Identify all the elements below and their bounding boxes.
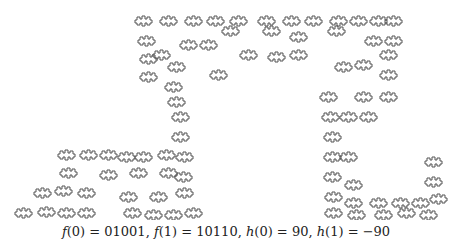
fractal-segment bbox=[58, 208, 75, 218]
fractal-segment bbox=[210, 70, 227, 80]
fractal-segment bbox=[305, 16, 322, 26]
fractal-segment bbox=[185, 16, 202, 26]
fractal-segment bbox=[430, 194, 447, 204]
fractal-segment bbox=[168, 62, 185, 72]
fractal-segment bbox=[355, 92, 372, 102]
fractal-segment bbox=[370, 16, 387, 26]
fractal-segment bbox=[100, 170, 117, 180]
fractal-segment bbox=[180, 40, 197, 50]
fractal-segment bbox=[165, 210, 182, 220]
fractal-segment bbox=[392, 198, 409, 208]
fractal-segment bbox=[172, 132, 189, 142]
fractal-segment bbox=[150, 192, 167, 202]
fractal-segment bbox=[290, 50, 307, 60]
fractal-segment bbox=[385, 36, 402, 46]
fractal-segment bbox=[100, 150, 117, 160]
fractal-segment bbox=[60, 168, 77, 178]
fractal-segment bbox=[160, 16, 177, 26]
fractal-segment bbox=[360, 112, 377, 122]
fractal-segment bbox=[124, 208, 141, 218]
fractal-segment bbox=[200, 40, 217, 50]
fractal-segment bbox=[325, 208, 342, 218]
fractal-segment bbox=[380, 70, 397, 80]
fractal-segment bbox=[230, 16, 247, 26]
fractal-segment bbox=[328, 26, 345, 36]
fractal-segment bbox=[140, 72, 157, 82]
fractal-segment bbox=[355, 60, 372, 70]
fractal-segment bbox=[380, 50, 397, 60]
fractal-segment bbox=[135, 16, 152, 26]
fractal-segment bbox=[350, 16, 367, 26]
fractal-segment bbox=[375, 210, 392, 220]
figure-caption: f(0) = 01001, f(1) = 10110, h(0) = 90, h… bbox=[0, 224, 452, 239]
fractal-segment bbox=[120, 192, 137, 202]
fractal-segment bbox=[80, 150, 97, 160]
fractal-segment bbox=[324, 132, 341, 142]
caption-h0-value: (0) = 90, bbox=[254, 224, 316, 239]
fractal-segment bbox=[412, 198, 429, 208]
fractal-segment bbox=[425, 177, 442, 187]
caption-f0-value: (0) = 01001, bbox=[67, 224, 154, 239]
fractal-segment bbox=[172, 112, 189, 122]
fractal-segment bbox=[325, 192, 342, 202]
fractal-segment bbox=[380, 92, 397, 102]
fractal-segment bbox=[55, 186, 72, 196]
fractal-segment bbox=[176, 152, 193, 162]
fractal-segment bbox=[165, 82, 182, 92]
fractal-segment bbox=[168, 97, 185, 107]
fractal-segment bbox=[176, 188, 193, 198]
fractal-segment bbox=[160, 168, 177, 178]
fractal-segment bbox=[158, 150, 175, 160]
fractal-segment bbox=[140, 54, 157, 64]
fractal-segment bbox=[420, 210, 437, 220]
fractal-segment bbox=[268, 52, 285, 62]
fractal-segment bbox=[340, 112, 357, 122]
fractal-segment bbox=[207, 16, 224, 26]
fractal-segment bbox=[320, 92, 337, 102]
fractal-tiles bbox=[15, 16, 447, 220]
fractal-segment bbox=[153, 50, 170, 60]
fractal-segment bbox=[222, 26, 239, 36]
fractal-segment bbox=[240, 50, 257, 60]
fractal-segment bbox=[258, 16, 275, 26]
fractal-segment bbox=[335, 62, 352, 72]
caption-h-symbol: h bbox=[317, 224, 325, 239]
fractal-segment bbox=[322, 112, 339, 122]
fractal-segment bbox=[78, 208, 95, 218]
fractal-segment bbox=[330, 16, 347, 26]
fractal-segment bbox=[130, 168, 147, 178]
fractal-segment bbox=[175, 172, 192, 182]
fractal-segment bbox=[58, 150, 75, 160]
caption-h1-value: (1) = −90 bbox=[325, 224, 390, 239]
fractal-segment bbox=[38, 207, 55, 217]
fractal-segment bbox=[78, 188, 95, 198]
fractal-segment bbox=[283, 16, 300, 26]
fractal-segment bbox=[34, 188, 51, 198]
fractal-segment bbox=[138, 36, 155, 46]
fractal-segment bbox=[324, 152, 341, 162]
fractal-segment bbox=[145, 210, 162, 220]
fractal-segment bbox=[135, 152, 152, 162]
fractal-segment bbox=[425, 157, 442, 167]
fractal-segment bbox=[263, 26, 280, 36]
fractal-segment bbox=[15, 208, 32, 218]
fractal-segment bbox=[185, 208, 202, 218]
fractal-segment bbox=[118, 152, 135, 162]
fractal-segment bbox=[324, 172, 341, 182]
fractal-segment bbox=[370, 198, 387, 208]
fractal-segment bbox=[385, 16, 402, 26]
fractal-segment bbox=[290, 32, 307, 42]
fractal-curve-figure bbox=[0, 0, 452, 220]
fractal-segment bbox=[345, 198, 362, 208]
fractal-segment bbox=[345, 180, 362, 190]
fractal-segment bbox=[348, 210, 365, 220]
fractal-segment bbox=[398, 208, 415, 218]
caption-f1-value: (1) = 10110, bbox=[159, 224, 246, 239]
fractal-segment bbox=[365, 36, 382, 46]
fractal-segment bbox=[340, 152, 357, 162]
